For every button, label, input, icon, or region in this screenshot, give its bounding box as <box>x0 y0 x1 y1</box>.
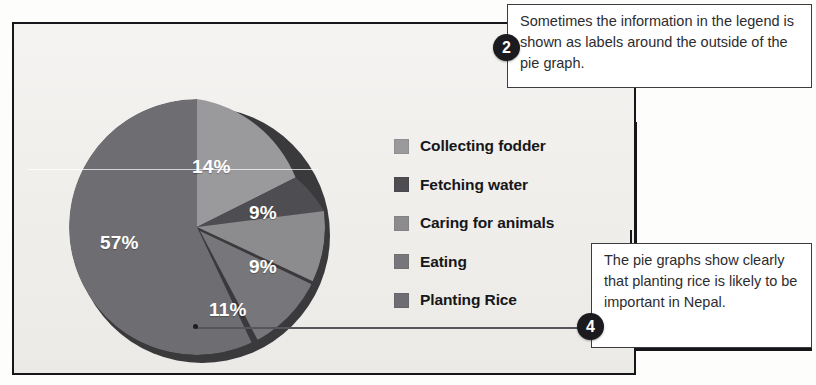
chart-legend: Collecting fodder Fetching water Caring … <box>394 127 624 320</box>
legend-swatch-caring-for-animals <box>394 216 409 231</box>
legend-label-collecting-fodder: Collecting fodder <box>420 137 546 155</box>
legend-label-planting-rice: Planting Rice <box>420 291 517 309</box>
callout-marker-4-number: 4 <box>586 318 595 336</box>
pie-label-fetching-water: 9% <box>249 202 277 224</box>
pie-chart: 14% 9% 9% 11% 57% <box>69 99 335 371</box>
callout-4-leader-line <box>196 327 586 329</box>
legend-item-fetching-water: Fetching water <box>394 166 624 205</box>
legend-label-eating: Eating <box>420 253 467 271</box>
pie-label-planting-rice: 57% <box>100 232 139 254</box>
legend-item-eating: Eating <box>394 243 624 282</box>
callout-2-text: Sometimes the information in the legend … <box>520 13 794 71</box>
legend-swatch-fetching-water <box>394 177 409 192</box>
pie-label-eating: 11% <box>209 299 247 321</box>
callout-4-leader-stem <box>630 230 632 244</box>
callout-marker-2: 2 <box>493 34 520 61</box>
callout-box-2: Sometimes the information in the legend … <box>507 4 812 88</box>
scan-artifact-line <box>28 169 318 170</box>
callout-box-4: The pie graphs show clearly that plantin… <box>591 243 812 348</box>
figure-canvas: 14% 9% 9% 11% 57% Collecting fodder Fetc… <box>0 0 816 385</box>
pie-body <box>69 99 325 355</box>
callout-4-anchor-dot <box>193 324 198 329</box>
panel-bottom-extension <box>636 348 812 351</box>
pie-label-caring-for-animals: 9% <box>249 256 277 278</box>
legend-label-caring-for-animals: Caring for animals <box>420 214 554 232</box>
callout-marker-2-number: 2 <box>502 39 511 57</box>
legend-swatch-eating <box>394 254 409 269</box>
legend-item-collecting-fodder: Collecting fodder <box>394 127 624 166</box>
pie-label-collecting-fodder: 14% <box>192 156 231 178</box>
callout-4-text: The pie graphs show clearly that plantin… <box>604 252 797 310</box>
callout-marker-4: 4 <box>577 313 604 340</box>
legend-swatch-planting-rice <box>394 293 409 308</box>
legend-item-caring-for-animals: Caring for animals <box>394 204 624 243</box>
pie-slices-svg <box>69 99 325 355</box>
legend-swatch-collecting-fodder <box>394 139 409 154</box>
legend-label-fetching-water: Fetching water <box>420 176 528 194</box>
